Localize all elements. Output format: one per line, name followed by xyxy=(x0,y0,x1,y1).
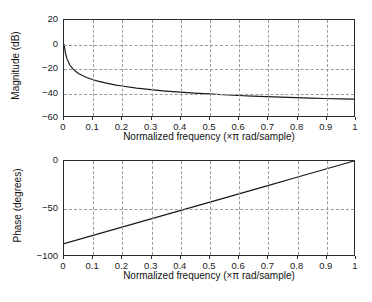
data-line xyxy=(64,161,354,244)
phase-y-axis-title: Phase (degrees) xyxy=(12,156,23,256)
axis-tick-x xyxy=(355,117,356,120)
magnitude-curve xyxy=(64,20,354,116)
figure-bode-plot: Magnitude (dB) 00.10.20.30.40.50.60.70.8… xyxy=(0,0,372,302)
axis-tick-x xyxy=(121,256,122,259)
y-tick-label: −50 xyxy=(24,202,58,213)
axis-tick-x xyxy=(238,117,239,120)
magnitude-panel: Magnitude (dB) 00.10.20.30.40.50.60.70.8… xyxy=(0,0,372,151)
axis-tick-x xyxy=(267,256,268,259)
phase-plot-area xyxy=(63,160,355,256)
phase-x-axis-title: Normalized frequency (×π rad/sample) xyxy=(63,270,355,281)
axis-tick-x xyxy=(238,256,239,259)
magnitude-plot-area xyxy=(63,19,355,117)
magnitude-x-axis-title: Normalized frequency (×π rad/sample) xyxy=(63,131,355,142)
axis-tick-x xyxy=(326,117,327,120)
axis-tick-x xyxy=(121,117,122,120)
phase-panel: Phase (degrees) 00.10.20.30.40.50.60.70.… xyxy=(0,151,372,302)
axis-tick-x xyxy=(180,256,181,259)
y-tick-label: −100 xyxy=(24,250,58,261)
y-tick-label: 0 xyxy=(24,154,58,165)
axis-tick-x xyxy=(267,117,268,120)
axis-tick-x xyxy=(63,256,64,259)
axis-tick-x xyxy=(180,117,181,120)
axis-tick-x xyxy=(297,117,298,120)
axis-tick-x xyxy=(151,256,152,259)
axis-tick-x xyxy=(209,117,210,120)
y-tick-label: 0 xyxy=(24,38,58,49)
axis-tick-x xyxy=(151,117,152,120)
y-tick-label: 20 xyxy=(24,13,58,24)
axis-tick-x xyxy=(297,256,298,259)
data-line xyxy=(64,44,354,99)
axis-tick-x xyxy=(92,256,93,259)
y-tick-label: −40 xyxy=(24,87,58,98)
y-tick-label: −20 xyxy=(24,62,58,73)
axis-tick-x xyxy=(63,117,64,120)
axis-tick-x xyxy=(355,256,356,259)
magnitude-y-axis-title: Magnitude (dB) xyxy=(10,16,21,116)
y-tick-label: −60 xyxy=(24,111,58,122)
axis-tick-x xyxy=(92,117,93,120)
axis-tick-x xyxy=(209,256,210,259)
axis-tick-x xyxy=(326,256,327,259)
phase-curve xyxy=(64,161,354,255)
